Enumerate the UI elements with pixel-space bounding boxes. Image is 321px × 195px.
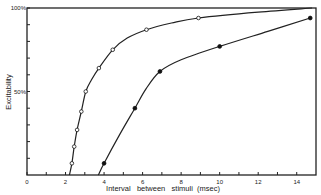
y-tick-label: 100% bbox=[11, 5, 27, 11]
open-circles-point bbox=[197, 16, 201, 20]
x-axis-label: Interval between stimuli (msec) bbox=[106, 184, 220, 193]
open-circles-point bbox=[145, 28, 149, 32]
filled-circles-line bbox=[98, 18, 310, 175]
excitability-chart: 02468101214 50%100% Interval between sti… bbox=[0, 0, 321, 195]
open-circles-line bbox=[69, 8, 312, 175]
x-tick-label: 0 bbox=[25, 179, 29, 185]
series-markers bbox=[70, 16, 312, 165]
y-axis-label: Excitability bbox=[4, 74, 13, 110]
x-tick-label: 2 bbox=[64, 179, 68, 185]
plot-frame bbox=[27, 8, 316, 175]
open-circles-point bbox=[84, 90, 88, 94]
open-circles-point bbox=[80, 110, 84, 114]
filled-circles-point bbox=[308, 16, 312, 20]
x-tick-label: 14 bbox=[293, 179, 300, 185]
x-tick-label: 12 bbox=[255, 179, 262, 185]
open-circles-point bbox=[75, 128, 79, 132]
open-circles-point bbox=[72, 145, 76, 149]
plot-border bbox=[27, 8, 316, 175]
y-tick-label: 50% bbox=[14, 89, 27, 95]
filled-circles-point bbox=[158, 70, 162, 74]
open-circles-point bbox=[111, 48, 115, 52]
filled-circles-point bbox=[133, 106, 137, 110]
open-circles-point bbox=[97, 66, 101, 70]
series-curves bbox=[69, 8, 312, 175]
filled-circles-point bbox=[218, 45, 222, 49]
open-circles-point bbox=[70, 162, 74, 166]
filled-circles-point bbox=[102, 161, 106, 165]
